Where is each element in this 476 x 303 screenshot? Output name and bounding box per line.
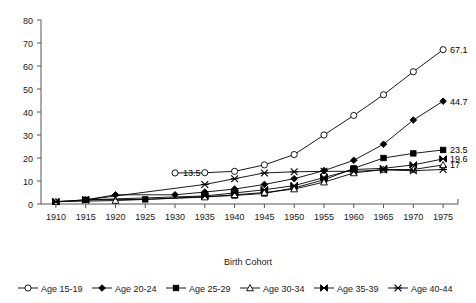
y-axis-ticks: 01020304050607080 — [23, 16, 41, 210]
x-axis-ticks: 1910191519201925193019351940194519501955… — [46, 204, 453, 222]
series-age-35-39 — [53, 156, 447, 205]
y-tick-label: 20 — [23, 154, 33, 164]
x-tick-label: 1930 — [165, 212, 185, 222]
data-point-marker — [202, 170, 208, 176]
x-axis-label: Birth Cohort — [224, 257, 273, 267]
x-tick-label: 1935 — [195, 212, 215, 222]
data-point-marker — [99, 285, 106, 292]
data-point-marker — [201, 181, 209, 188]
data-annotations: 13.5 — [183, 168, 201, 178]
legend-label: Age 40-44 — [411, 284, 453, 294]
x-tick-label: 1925 — [135, 212, 155, 222]
series-age-15-19 — [172, 47, 446, 176]
x-tick-label: 1920 — [105, 212, 125, 222]
legend-label: Age 20-24 — [115, 284, 157, 294]
series-end-labels: 67.144.723.51719.6 — [450, 45, 468, 170]
data-point-marker — [411, 151, 416, 156]
data-point-marker — [380, 92, 386, 98]
data-point-marker — [410, 69, 416, 75]
series-end-label: 44.7 — [450, 97, 468, 107]
x-tick-label: 1975 — [433, 212, 453, 222]
chart-legend: Age 15-19Age 20-24Age 25-29Age 30-34Age … — [18, 284, 453, 294]
y-tick-label: 30 — [23, 131, 33, 141]
data-point-marker — [440, 147, 445, 152]
chart-container: 01020304050607080 1910191519201925193019… — [0, 0, 476, 303]
data-point-marker — [440, 98, 447, 105]
legend-item-age-30-34[interactable]: Age 30-34 — [240, 284, 305, 294]
data-point-marker — [25, 285, 31, 291]
data-point-marker — [261, 181, 268, 188]
y-tick-label: 40 — [23, 108, 33, 118]
data-point-marker — [381, 155, 386, 160]
legend-item-age-35-39[interactable]: Age 35-39 — [314, 284, 379, 294]
y-tick-label: 60 — [23, 62, 33, 72]
legend-label: Age 30-34 — [263, 284, 305, 294]
y-tick-label: 50 — [23, 85, 33, 95]
legend-item-age-25-29[interactable]: Age 25-29 — [166, 284, 231, 294]
series-plot-area — [52, 47, 447, 206]
data-point-marker — [173, 285, 178, 290]
x-tick-label: 1970 — [403, 212, 423, 222]
data-point-marker — [351, 112, 357, 118]
series-end-label: 19.6 — [450, 154, 468, 164]
x-tick-label: 1910 — [46, 212, 66, 222]
data-point-marker — [232, 168, 238, 174]
data-point-marker — [321, 285, 327, 291]
x-tick-label: 1945 — [254, 212, 274, 222]
legend-item-age-15-19[interactable]: Age 15-19 — [18, 284, 83, 294]
data-point-marker — [291, 151, 297, 157]
line-chart: 01020304050607080 1910191519201925193019… — [0, 0, 476, 303]
y-tick-label: 80 — [23, 16, 33, 26]
y-tick-label: 70 — [23, 39, 33, 49]
annotation-label: 13.5 — [183, 168, 201, 178]
data-point-marker — [290, 168, 298, 175]
data-point-marker — [321, 132, 327, 138]
data-point-marker — [291, 175, 298, 182]
y-tick-label: 0 — [28, 200, 33, 210]
data-point-marker — [394, 285, 402, 292]
legend-label: Age 35-39 — [337, 284, 379, 294]
x-tick-label: 1955 — [314, 212, 334, 222]
data-point-marker — [172, 170, 178, 176]
data-point-marker — [440, 47, 446, 53]
data-point-marker — [260, 170, 268, 177]
series-age-20-24 — [82, 98, 446, 203]
series-line — [175, 50, 443, 173]
x-tick-label: 1965 — [374, 212, 394, 222]
x-tick-label: 1915 — [76, 212, 96, 222]
x-tick-label: 1950 — [284, 212, 304, 222]
x-tick-label: 1940 — [225, 212, 245, 222]
legend-item-age-20-24[interactable]: Age 20-24 — [92, 284, 157, 294]
legend-item-age-40-44[interactable]: Age 40-44 — [388, 284, 453, 294]
data-point-marker — [231, 175, 239, 182]
data-point-marker — [350, 157, 357, 164]
series-end-label: 67.1 — [450, 45, 468, 55]
legend-label: Age 15-19 — [41, 284, 83, 294]
legend-label: Age 25-29 — [189, 284, 231, 294]
x-tick-label: 1960 — [344, 212, 364, 222]
data-point-marker — [261, 162, 267, 168]
y-tick-label: 10 — [23, 177, 33, 187]
